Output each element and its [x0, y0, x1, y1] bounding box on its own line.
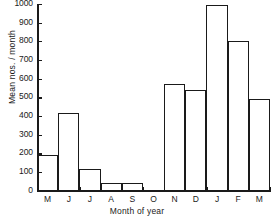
y-tick: 600	[37, 79, 42, 80]
bar	[58, 113, 79, 192]
plot-area: 01002003004005006007008009001000	[37, 5, 270, 192]
x-tick	[143, 187, 144, 192]
bar	[206, 5, 227, 192]
bar	[37, 155, 58, 192]
x-tick-label: D	[185, 194, 206, 204]
bar	[249, 99, 270, 193]
bar	[79, 169, 100, 192]
x-tick-label: J	[79, 194, 100, 204]
y-tick: 300	[37, 135, 42, 136]
x-tick-label: M	[249, 194, 270, 204]
y-axis-title: Mean nos. / month	[7, 2, 17, 132]
x-tick-label: O	[143, 194, 164, 204]
x-tick-label: J	[206, 194, 227, 204]
y-tick-label: 200	[19, 147, 33, 157]
bar	[228, 41, 249, 192]
y-tick-label: 400	[19, 110, 33, 120]
y-tick: 800	[37, 41, 42, 42]
y-tick: 900	[37, 23, 42, 24]
y-tick: 700	[37, 60, 42, 61]
bar	[164, 84, 185, 192]
x-tick-label: M	[37, 194, 58, 204]
y-tick-label: 500	[19, 91, 33, 101]
x-tick-label: A	[101, 194, 122, 204]
y-tick: 1000	[37, 4, 42, 5]
x-tick-label: S	[122, 194, 143, 204]
bar-chart-figure: Mean nos. / month 0100200300400500600700…	[0, 0, 274, 220]
x-tick-label: F	[228, 194, 249, 204]
y-tick-label: 800	[19, 35, 33, 45]
x-axis-title: Month of year	[0, 206, 274, 216]
bar	[101, 183, 122, 192]
y-tick: 500	[37, 97, 42, 98]
x-tick	[270, 187, 271, 192]
y-tick-label: 300	[19, 129, 33, 139]
y-tick-label: 700	[19, 54, 33, 64]
y-tick-label: 100	[19, 166, 33, 176]
bar	[122, 183, 143, 192]
y-tick-label: 600	[19, 73, 33, 83]
y-tick-label: 1000	[14, 0, 33, 8]
y-tick-label: 900	[19, 17, 33, 27]
x-tick-label: N	[164, 194, 185, 204]
bar	[185, 90, 206, 192]
y-tick: 400	[37, 116, 42, 117]
y-tick-label: 0	[28, 185, 33, 195]
x-tick-label: J	[58, 194, 79, 204]
